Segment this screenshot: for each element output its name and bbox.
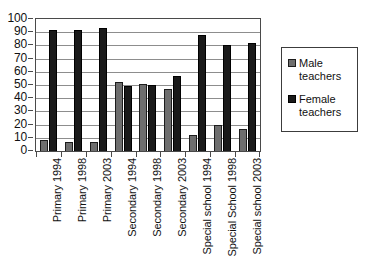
- x-tick-label: Secondary 2003: [177, 158, 188, 237]
- x-tick-label: Secondary 1998: [152, 158, 163, 237]
- y-tick-mark: [28, 97, 33, 98]
- bar-male: [40, 140, 48, 151]
- bar-group: [61, 19, 86, 151]
- y-tick-mark: [28, 44, 33, 45]
- x-tick-mark: [235, 152, 236, 157]
- x-axis-labels: Primary 1994Primary 1998Primary 2003Seco…: [35, 158, 261, 242]
- bar-group: [86, 19, 111, 151]
- bar-female: [198, 35, 206, 151]
- x-tick-label: Primary 2003: [102, 158, 113, 222]
- bar-male: [189, 135, 197, 151]
- x-tick-mark: [86, 152, 87, 157]
- y-tick-label: 80: [14, 38, 27, 50]
- legend-label-female: Female teachers: [299, 93, 357, 119]
- legend-entry-male: Male teachers: [288, 57, 357, 83]
- bar-female: [49, 30, 57, 151]
- y-tick-label: 10: [14, 131, 27, 143]
- bar-male: [65, 142, 73, 151]
- y-tick-mark: [28, 137, 33, 138]
- x-tick-mark: [111, 152, 112, 157]
- y-tick-mark: [28, 71, 33, 72]
- bar-female: [124, 86, 132, 151]
- bar-female: [99, 28, 107, 151]
- y-tick-mark: [28, 150, 33, 151]
- bar-group: [235, 19, 260, 151]
- y-tick-label: 20: [14, 118, 27, 130]
- bar-female: [74, 30, 82, 151]
- bar-group: [160, 19, 185, 151]
- bar-male: [115, 82, 123, 151]
- y-tick-label: 100: [8, 12, 27, 24]
- y-tick-label: 60: [14, 65, 27, 77]
- x-tick-label: Special school 1994: [202, 158, 213, 255]
- male-color-swatch: [288, 59, 296, 67]
- x-tick-mark: [61, 152, 62, 157]
- y-tick-mark: [28, 84, 33, 85]
- bar-group: [111, 19, 136, 151]
- y-tick-label: 30: [14, 104, 27, 116]
- bar-group: [136, 19, 161, 151]
- x-tick-mark: [36, 152, 37, 157]
- x-tick-label: Special school 2003: [252, 158, 263, 255]
- x-tick-mark: [259, 152, 260, 157]
- bar-male: [239, 129, 247, 151]
- bar-female: [248, 43, 256, 151]
- y-tick-label: 90: [14, 25, 27, 37]
- y-tick-label: 40: [14, 91, 27, 103]
- x-tick-mark: [160, 152, 161, 157]
- x-tick-mark: [136, 152, 137, 157]
- x-tick-label: Special School 1998: [227, 158, 238, 256]
- x-tick-mark: [185, 152, 186, 157]
- bar-male: [90, 142, 98, 151]
- bar-male: [164, 89, 172, 151]
- bar-group: [185, 19, 210, 151]
- bars-layer: [36, 19, 260, 151]
- bar-male: [214, 125, 222, 151]
- y-tick-label: 70: [14, 52, 27, 64]
- bar-group: [36, 19, 61, 151]
- x-tick-label: Primary 1998: [77, 158, 88, 222]
- y-tick-mark: [28, 110, 33, 111]
- y-tick-mark: [28, 18, 33, 19]
- y-tick-label: 0: [21, 144, 27, 156]
- legend-label-male: Male teachers: [299, 57, 357, 83]
- y-tick-mark: [28, 124, 33, 125]
- y-tick-mark: [28, 31, 33, 32]
- y-tick-label: 50: [14, 78, 27, 90]
- bar-female: [223, 45, 231, 151]
- x-tick-mark: [210, 152, 211, 157]
- x-axis-ticks: [35, 152, 261, 157]
- bar-female: [148, 85, 156, 151]
- bar-female: [173, 76, 181, 151]
- bar-male: [139, 84, 147, 151]
- chart-legend: Male teachers Female teachers: [281, 47, 358, 132]
- x-tick-label: Primary 1994: [52, 158, 63, 222]
- y-axis: 1009080706050403020100: [0, 18, 33, 152]
- bar-group: [210, 19, 235, 151]
- y-tick-mark: [28, 58, 33, 59]
- female-color-swatch: [288, 95, 296, 103]
- x-tick-label: Secondary 1994: [127, 158, 138, 237]
- legend-entry-female: Female teachers: [288, 93, 357, 119]
